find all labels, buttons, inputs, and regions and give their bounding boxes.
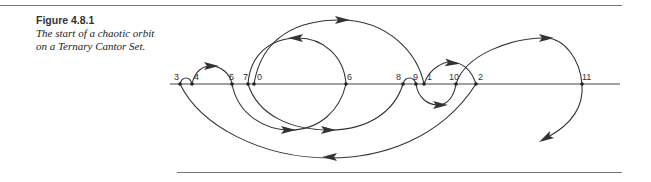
point-label: 7 — [243, 72, 248, 82]
orbit-point-9 — [414, 82, 418, 86]
orbit-point-10 — [454, 82, 458, 86]
arrowhead-icon — [537, 131, 554, 145]
point-label: 0 — [257, 72, 262, 82]
orbit-6-to-7 — [248, 38, 346, 84]
point-label: 1 — [427, 72, 432, 82]
orbit-point-8 — [401, 82, 405, 86]
point-label: 4 — [194, 72, 199, 82]
orbit-point-5 — [230, 82, 234, 86]
cantor-orbit-diagram: 34570689110211 — [0, 0, 651, 182]
arrowhead-icon — [322, 153, 337, 161]
orbit-2-to-3 — [180, 84, 476, 158]
orbit-11-to-next — [548, 84, 582, 137]
point-label: 3 — [174, 72, 179, 82]
orbit-point-4 — [190, 82, 194, 86]
orbit-point-11 — [580, 82, 584, 86]
point-label: 6 — [347, 72, 352, 82]
point-label: 10 — [449, 72, 459, 82]
point-label: 9 — [413, 72, 418, 82]
point-label: 2 — [478, 72, 483, 82]
orbit-point-3 — [178, 82, 182, 86]
orbit-point-6 — [344, 82, 348, 86]
orbit-point-0 — [252, 82, 256, 86]
point-label: 5 — [229, 72, 234, 82]
orbit-10-to-11 — [456, 38, 582, 84]
arrowhead-icon — [445, 58, 461, 67]
orbit-point-7 — [246, 82, 250, 86]
orbit-point-2 — [474, 82, 478, 86]
orbit-7-to-8 — [248, 84, 403, 130]
point-label: 8 — [396, 72, 401, 82]
orbit-3-to-4 — [180, 78, 192, 84]
orbit-point-1 — [422, 82, 426, 86]
point-label: 11 — [582, 72, 591, 82]
